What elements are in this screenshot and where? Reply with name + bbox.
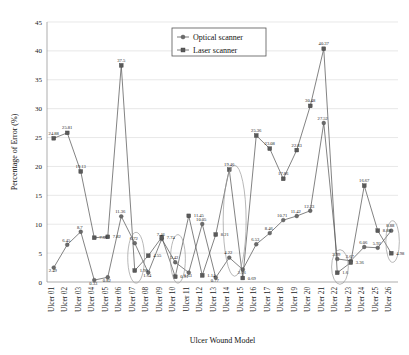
data-label: 5.92 [373, 241, 382, 246]
data-point [295, 148, 299, 152]
x-tick-label: Ulcer 15 [237, 287, 245, 312]
chart-svg: 051015202530354045 Ulcer 01Ulcer 02Ulcer… [0, 0, 409, 355]
data-label: 3.99 [332, 252, 341, 257]
data-label: 12.33 [304, 204, 315, 209]
data-label: 30.48 [305, 98, 316, 103]
data-label: 22.83 [292, 143, 303, 148]
data-label: 3.67 [346, 254, 355, 259]
data-point [79, 230, 83, 234]
data-label: 17.86 [278, 171, 289, 176]
data-label: 0.33 [89, 281, 98, 286]
chart-legend[interactable]: Optical scannerLaser scanner [172, 28, 266, 56]
data-label: 11.36 [115, 209, 126, 214]
data-point [187, 214, 191, 218]
data-label: 4.55 [153, 253, 162, 258]
x-tick-label: Ulcer 14 [223, 287, 231, 312]
x-tick-label: Ulcer 10 [169, 287, 177, 312]
x-tick-label: Ulcer 19 [291, 287, 299, 312]
data-point [349, 261, 353, 265]
data-point [133, 241, 137, 245]
y-tick-label: 5 [39, 250, 43, 258]
legend-marker [181, 35, 185, 39]
data-label: 8.46 [265, 226, 274, 231]
data-label: 0.77 [211, 278, 220, 283]
data-label: 7.82 [113, 234, 122, 239]
series-line-laser-scanner [54, 49, 392, 278]
line-chart-figure: 051015202530354045 Ulcer 01Ulcer 02Ulcer… [0, 0, 409, 355]
y-axis: 051015202530354045 [35, 19, 47, 287]
data-label: 25.81 [62, 125, 73, 130]
data-point [119, 214, 123, 218]
data-point [79, 170, 83, 174]
x-tick-label: Ulcer 26 [385, 287, 393, 312]
data-label: 8.88 [383, 228, 392, 233]
legend-label[interactable]: Laser scanner [193, 46, 238, 55]
data-point [322, 121, 326, 125]
data-label: 19.13 [76, 164, 87, 169]
data-label: 24.88 [49, 131, 60, 136]
data-label: 37.5 [117, 58, 126, 63]
highlight-ulcer-14 [223, 165, 246, 276]
data-label: 1.64 [143, 273, 152, 278]
x-tick-label: Ulcer 20 [304, 287, 312, 312]
data-label: 8.7 [77, 225, 83, 230]
data-label: 11.45 [194, 213, 205, 218]
data-point [362, 245, 366, 249]
x-tick-label: Ulcer 06 [115, 287, 123, 312]
data-label: 2.49 [49, 268, 58, 273]
data-point [214, 233, 218, 237]
data-point [281, 177, 285, 181]
x-tick-label: Ulcer 11 [183, 287, 191, 312]
data-point [335, 271, 339, 275]
data-label: 3.36 [356, 260, 365, 265]
data-point [268, 231, 272, 235]
data-point [92, 236, 96, 240]
data-point [389, 251, 393, 255]
data-label: 1.98 [140, 268, 149, 273]
legend-label[interactable]: Optical scanner [193, 33, 243, 42]
data-label: 3.42 [170, 255, 179, 260]
data-label: 40.37 [319, 41, 330, 46]
x-tick-label: Ulcer 01 [48, 287, 56, 312]
data-point [254, 242, 258, 246]
x-tick-label: Ulcer 13 [210, 287, 218, 312]
data-label: 2.16 [238, 270, 247, 275]
data-label: 6.53 [251, 237, 260, 242]
data-labels: 2.496.458.70.330.8211.366.721.647.463.42… [49, 41, 405, 285]
series-lines [52, 47, 393, 282]
y-tick-label: 20 [35, 163, 43, 171]
data-label: 25.36 [251, 128, 262, 133]
y-tick-label: 15 [35, 192, 43, 200]
data-label: 16.67 [359, 178, 370, 183]
data-label: 0.82 [103, 278, 112, 283]
data-point [254, 134, 258, 138]
data-point [281, 218, 285, 222]
data-point [173, 275, 177, 279]
data-point [335, 257, 339, 261]
data-label: 7.74 [167, 235, 176, 240]
data-point [362, 184, 366, 188]
data-label: 8.21 [221, 232, 230, 237]
data-label: 6.06 [359, 240, 368, 245]
data-label: 4.98 [396, 251, 405, 256]
chart-page: 051015202530354045 Ulcer 01Ulcer 02Ulcer… [0, 0, 409, 355]
data-label: 1.6 [342, 270, 348, 275]
y-axis-title: Percentage of Error (%) [10, 113, 19, 190]
data-label: 7.66 [99, 235, 108, 240]
data-point [65, 131, 69, 135]
y-tick-label: 40 [35, 47, 43, 55]
x-tick-label: Ulcer 03 [75, 287, 83, 312]
y-tick-label: 30 [35, 105, 43, 113]
data-point [376, 229, 380, 233]
x-tick-label: Ulcer 09 [156, 287, 164, 312]
data-point [173, 260, 177, 264]
y-tick-label: 0 [39, 279, 43, 287]
data-point [241, 276, 245, 280]
grid-lines [47, 22, 398, 253]
data-point [119, 63, 123, 67]
data-point [146, 254, 150, 258]
data-label: 6.45 [62, 238, 71, 243]
y-tick-label: 25 [35, 134, 43, 142]
data-point [227, 256, 231, 260]
data-label: 1.14 [207, 273, 216, 278]
